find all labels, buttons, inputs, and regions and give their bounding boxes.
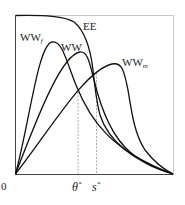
wwf-label: WWf [20, 31, 44, 45]
wwf-curve [16, 42, 174, 174]
origin-label: 0 [1, 180, 7, 192]
wwm-label: WWm [122, 56, 148, 70]
chart-svg: EE WWf WW WWm 0 θ* s* [0, 0, 185, 205]
ee-label: EE [83, 20, 97, 32]
ww-label: WW [61, 41, 82, 53]
s-star-label: s* [92, 180, 101, 194]
chart-container: EE WWf WW WWm 0 θ* s* [0, 0, 185, 205]
theta-star-label: θ* [72, 180, 82, 194]
